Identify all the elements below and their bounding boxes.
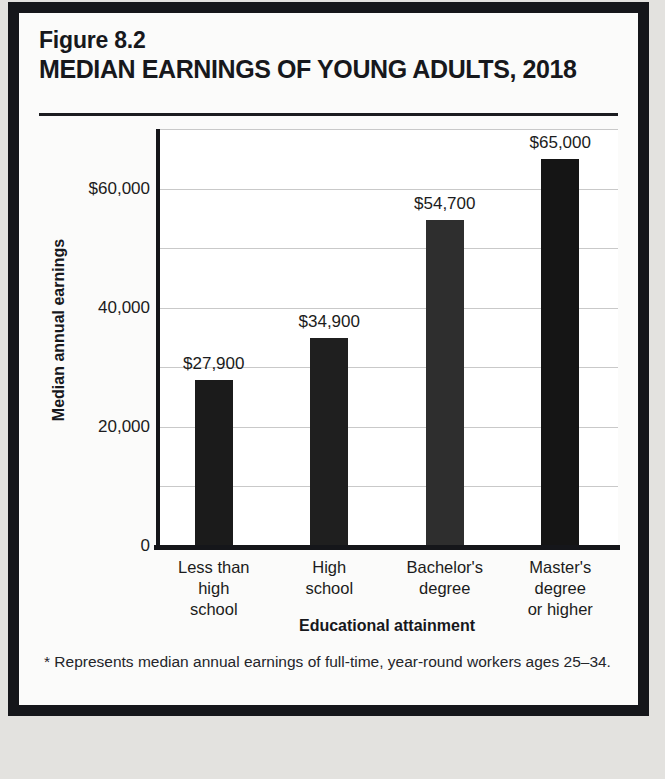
x-axis-category-label: Master'sdegreeor higher — [503, 557, 619, 620]
bar — [310, 338, 348, 546]
category-label-line: degree — [503, 578, 619, 599]
chart-area: Median annual earnings 020,00040,000$60,… — [19, 121, 638, 621]
category-label-line: Less than — [156, 557, 272, 578]
figure-inner: Figure 8.2 MEDIAN EARNINGS OF YOUNG ADUL… — [19, 13, 638, 705]
x-axis-category-label: Bachelor'sdegree — [387, 557, 503, 599]
figure-footnote: * Represents median annual earnings of f… — [44, 651, 614, 672]
y-axis-tick-label: 0 — [30, 536, 150, 556]
x-axis-title: Educational attainment — [156, 617, 618, 635]
category-label-line: High — [272, 557, 388, 578]
category-label-line: school — [272, 578, 388, 599]
page-background: Figure 8.2 MEDIAN EARNINGS OF YOUNG ADUL… — [0, 0, 665, 779]
x-axis-line — [154, 545, 620, 550]
bar-value-label: $65,000 — [530, 133, 591, 153]
category-label-line: degree — [387, 578, 503, 599]
title-divider — [39, 113, 618, 116]
y-axis-tick-label: $60,000 — [30, 179, 150, 199]
figure-number: Figure 8.2 — [39, 27, 146, 54]
figure-title: MEDIAN EARNINGS OF YOUNG ADULTS, 2018 — [39, 55, 577, 84]
y-axis-tick-label: 20,000 — [30, 417, 150, 437]
bar-value-label: $54,700 — [414, 194, 475, 214]
category-label-line: Bachelor's — [387, 557, 503, 578]
x-axis-category-label: Less thanhighschool — [156, 557, 272, 620]
figure-frame: Figure 8.2 MEDIAN EARNINGS OF YOUNG ADUL… — [8, 2, 649, 716]
bar-value-label: $34,900 — [299, 312, 360, 332]
category-label-line: Master's — [503, 557, 619, 578]
bar — [541, 159, 579, 546]
category-label-line: high — [156, 578, 272, 599]
gridline — [160, 129, 618, 130]
y-axis-line — [156, 129, 160, 546]
x-axis-category-label: Highschool — [272, 557, 388, 599]
bar-value-label: $27,900 — [183, 354, 244, 374]
y-axis-tick-label: 40,000 — [30, 298, 150, 318]
bar — [426, 220, 464, 546]
y-axis-tick-labels: 020,00040,000$60,000 — [24, 129, 150, 546]
plot-area: $27,900$34,900$54,700$65,000 — [156, 129, 618, 546]
bar — [195, 380, 233, 546]
